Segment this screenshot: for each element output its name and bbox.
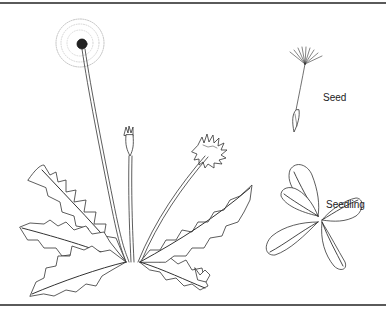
leaf-rosette: [20, 165, 252, 296]
bottom-rule: [0, 304, 386, 306]
seed-head: [56, 19, 104, 67]
flower-head: [192, 134, 227, 168]
dandelion-illustration: Seed Seedling: [0, 0, 386, 310]
botanical-drawing: [0, 0, 386, 310]
seed: [290, 47, 322, 132]
seed-label: Seed: [323, 92, 346, 103]
seedling-label: Seedling: [326, 199, 365, 210]
seedling: [266, 165, 362, 270]
flower-bud: [124, 126, 133, 156]
